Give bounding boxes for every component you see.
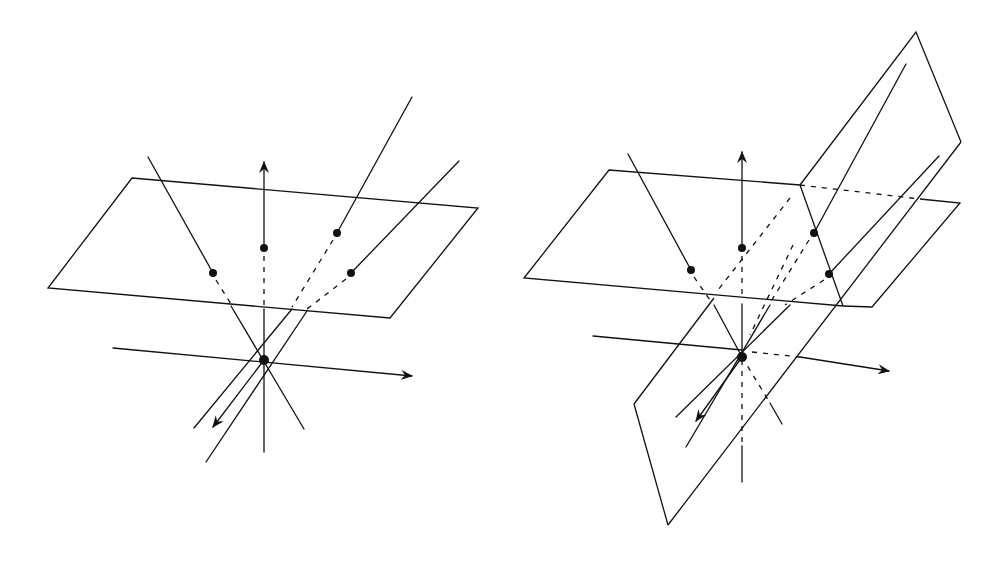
horizontal-axis-left [593,336,742,350]
image-point [209,269,217,277]
tilted-plane-left-edge [634,404,668,525]
hidden-ray-diag-2 [750,245,793,335]
hidden-ray-diag [718,198,790,290]
ray-left-below [231,306,304,429]
image-point [347,269,355,277]
image-point [687,266,695,274]
ray-right-lower-below [206,311,307,462]
hidden-plane-edge [800,185,920,199]
plane-intersection-line [800,185,843,306]
tilted-plane [800,32,961,185]
hidden-ray-right-lower [307,279,346,309]
image-point [260,244,268,252]
image-point [825,270,833,278]
ray-right-lower-below [676,305,790,417]
origin-point [259,355,269,365]
image-plane [524,170,843,306]
hidden-ray-left [216,280,231,304]
depth-axis [213,360,264,427]
hidden-ray-right-upper [292,240,333,307]
right-panel [524,32,961,525]
figure-canvas [0,0,1001,569]
ray-right-upper [337,97,412,233]
image-point [738,244,746,252]
hidden-ray-below [742,357,770,403]
image-point [333,229,341,237]
ray-below-tail [770,403,782,424]
ray-left [628,154,691,270]
tilted-plane-front-edge [668,142,961,525]
origin-point [737,352,747,362]
ray-right-lower [829,156,939,274]
tilted-plane-lower-edge [634,298,714,404]
image-plane-right-part [843,199,960,307]
horizontal-axis-hidden [752,352,800,357]
ray-left [148,157,213,273]
left-panel [48,97,478,462]
image-point [810,229,818,237]
depth-axis [696,357,742,421]
horizontal-axis-right [800,357,889,371]
hidden-ray-left [694,277,712,303]
